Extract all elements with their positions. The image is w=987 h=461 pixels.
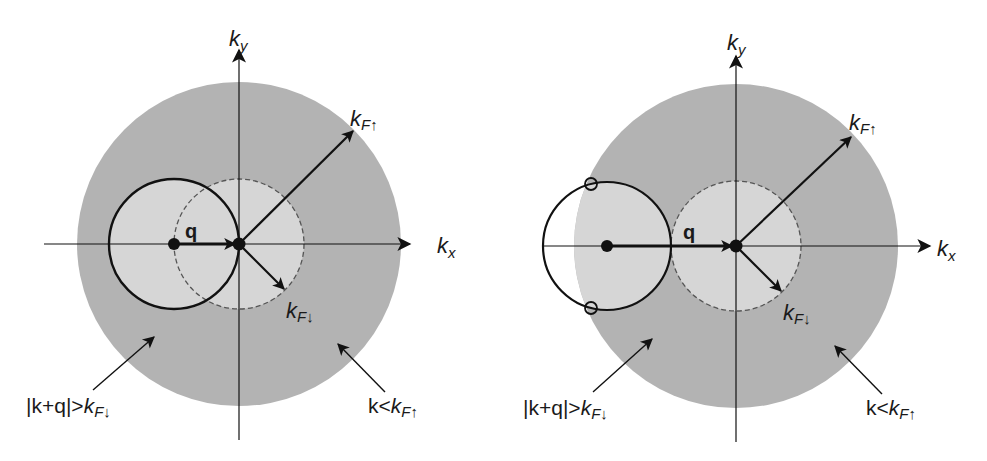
annotation-arrow-right [338,344,385,392]
q-label: q [185,220,197,242]
annotation-left-label: |k+q|>kF↓ [26,394,111,420]
kx-label: kx [437,233,456,261]
q-label: q [683,221,695,243]
kf-up-label: kF↑ [849,110,877,137]
fermi-sphere-diagram: ky kx q kF↑ kF↓ |k+q|>kF↓ k<kF↑ ky kx q [0,0,987,461]
annotation-right-label: k<kF↑ [368,394,418,420]
ky-label: ky [229,26,249,54]
panel-right: ky kx q kF↑ kF↓ |k+q|>kF↓ k<kF↑ [523,30,956,442]
annotation-left-label: |k+q|>kF↓ [523,396,608,422]
shift-center-dot [168,238,180,250]
shift-center-dot [601,240,613,252]
ky-label: ky [727,30,747,58]
panel-left: ky kx q kF↑ kF↓ |k+q|>kF↓ k<kF↑ [26,26,456,440]
annotation-arrow-right [835,346,882,394]
origin-dot [233,238,246,251]
kf-up-label: kF↑ [350,106,378,133]
origin-dot [730,240,743,253]
kx-label: kx [937,236,956,264]
annotation-right-label: k<kF↑ [866,396,916,422]
